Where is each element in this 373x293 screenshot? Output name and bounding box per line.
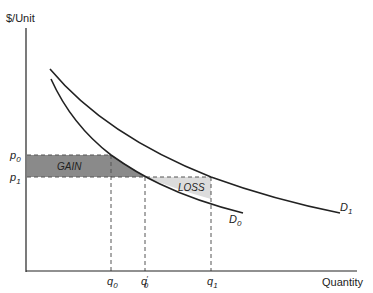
label-d1: D1: [340, 201, 352, 216]
tick-p1: p1: [9, 171, 21, 186]
demand-shift-chart: $/Unit Quantity p0 p1 q0 q′0 q1 D0 D1 GA…: [0, 0, 373, 293]
tick-p0: p0: [9, 149, 21, 164]
loss-label: LOSS: [178, 182, 205, 193]
y-axis-label: $/Unit: [6, 12, 35, 24]
tick-q0: q0: [107, 275, 118, 290]
tick-q1: q1: [207, 275, 218, 290]
gain-label: GAIN: [57, 161, 82, 172]
x-axis-label: Quantity: [322, 276, 363, 288]
tick-q0-prime: q′0: [141, 274, 149, 290]
label-d0: D0: [229, 213, 242, 228]
